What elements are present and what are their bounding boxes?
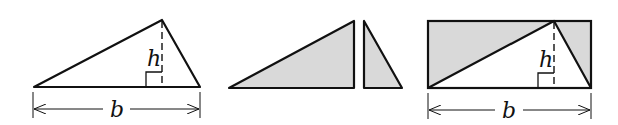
figure-triangle-in-rectangle: h b: [428, 21, 591, 123]
left-right-triangle: [229, 21, 354, 88]
figure-triangle: h b: [33, 20, 200, 122]
height-label: h: [539, 47, 553, 72]
triangle-area-diagram: h b h b: [0, 0, 618, 125]
base-label: b: [110, 97, 124, 122]
triangle-shape: [34, 20, 200, 87]
base-label: b: [502, 98, 516, 123]
height-label: h: [147, 46, 161, 71]
figure-split-triangles: [229, 21, 402, 88]
right-right-triangle: [364, 21, 402, 88]
